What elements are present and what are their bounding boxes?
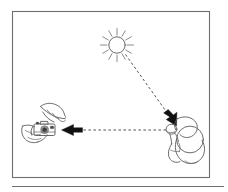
- diagram-canvas: [0, 0, 228, 192]
- arrowhead-left: [62, 124, 83, 135]
- light-path-diagram: Light path diagram Line drawing: sunligh…: [0, 0, 228, 192]
- sun-rays: [101, 29, 134, 62]
- camera-icon: [34, 121, 55, 135]
- incident-ray: [126, 55, 177, 127]
- sun-icon: [101, 29, 134, 62]
- subject-figure: [166, 117, 204, 164]
- panel-border: [13, 12, 210, 178]
- upper-hand: [41, 103, 66, 122]
- reflected-ray: [62, 124, 167, 135]
